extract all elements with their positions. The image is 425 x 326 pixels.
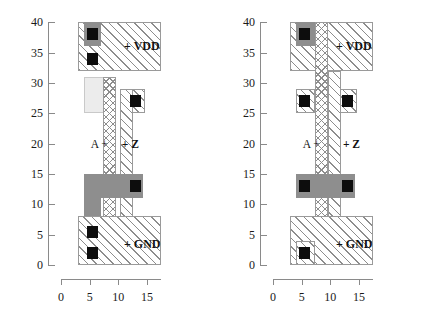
contact-vdd-pmos <box>87 28 98 40</box>
y-tick <box>260 53 267 54</box>
y-tick <box>260 265 267 266</box>
y-tick <box>260 144 267 145</box>
contact-output <box>130 95 141 107</box>
layout-comparison-figure: 0510152025303540051015+ VDD+ GNDA ++ Z 0… <box>0 0 425 326</box>
y-tick <box>260 174 267 175</box>
y-tick <box>48 83 55 84</box>
x-tick <box>273 279 274 285</box>
x-tick-label: 0 <box>51 291 71 303</box>
y-tick-label: 10 <box>233 198 255 210</box>
y-tick <box>48 22 55 23</box>
x-tick-label: 15 <box>137 291 157 303</box>
y-tick-label: 25 <box>21 107 43 119</box>
y-tick <box>260 204 267 205</box>
y-tick <box>260 83 267 84</box>
y-tick-label: 35 <box>21 47 43 59</box>
label-output-z: + Z <box>343 138 360 150</box>
y-tick-label: 5 <box>233 229 255 241</box>
x-tick <box>147 279 148 285</box>
label-vdd: + VDD <box>336 40 372 53</box>
y-tick <box>48 174 55 175</box>
contact-vdd-lower <box>87 53 98 65</box>
y-tick-label: 10 <box>21 198 43 210</box>
x-tick-label: 5 <box>80 291 100 303</box>
y-tick-label: 25 <box>233 107 255 119</box>
y-tick <box>260 235 267 236</box>
contact-drain <box>130 180 141 192</box>
contact-drain <box>342 180 353 192</box>
x-tick <box>118 279 119 285</box>
y-tick-label: 0 <box>233 259 255 271</box>
label-gnd: + GND <box>124 238 161 251</box>
contact-mid-left <box>299 95 310 107</box>
x-tick <box>359 279 360 285</box>
y-tick-label: 35 <box>233 47 255 59</box>
x-tick-label: 0 <box>263 291 283 303</box>
y-tick <box>48 235 55 236</box>
x-tick <box>61 279 62 285</box>
y-tick-label: 30 <box>21 77 43 89</box>
y-tick-label: 5 <box>21 229 43 241</box>
contact-gnd-lower <box>87 247 98 259</box>
contact-gnd-upper <box>87 226 98 238</box>
y-tick-label: 0 <box>21 259 43 271</box>
x-tick <box>90 279 91 285</box>
label-input-a: A + <box>91 138 108 150</box>
x-tick <box>330 279 331 285</box>
label-input-a: A + <box>303 138 320 150</box>
y-tick-label: 40 <box>21 16 43 28</box>
contact-mid-right <box>342 95 353 107</box>
label-gnd: + GND <box>336 238 373 251</box>
y-tick <box>48 113 55 114</box>
x-tick <box>302 279 303 285</box>
y-tick-label: 15 <box>233 168 255 180</box>
x-tick-label: 15 <box>349 291 369 303</box>
x-tick-label: 10 <box>108 291 128 303</box>
x-tick-label: 10 <box>320 291 340 303</box>
contact-gnd <box>299 247 310 259</box>
y-tick <box>48 53 55 54</box>
layout-panel-left: 0510152025303540051015+ VDD+ GNDA ++ Z <box>0 0 212 326</box>
y-tick <box>260 22 267 23</box>
y-tick <box>260 113 267 114</box>
y-tick-label: 30 <box>233 77 255 89</box>
x-tick-label: 5 <box>292 291 312 303</box>
y-tick <box>48 204 55 205</box>
y-tick <box>48 144 55 145</box>
contact-vdd-pmos <box>299 28 310 40</box>
contact-source <box>299 180 310 192</box>
y-tick <box>48 265 55 266</box>
y-tick-label: 20 <box>21 138 43 150</box>
y-tick-label: 20 <box>233 138 255 150</box>
label-vdd: + VDD <box>124 40 160 53</box>
layout-panel-right: 0510152025303540051015+ VDD+ GNDA ++ Z <box>212 0 424 326</box>
y-tick-label: 40 <box>233 16 255 28</box>
y-tick-label: 15 <box>21 168 43 180</box>
label-output-z: + Z <box>122 138 139 150</box>
